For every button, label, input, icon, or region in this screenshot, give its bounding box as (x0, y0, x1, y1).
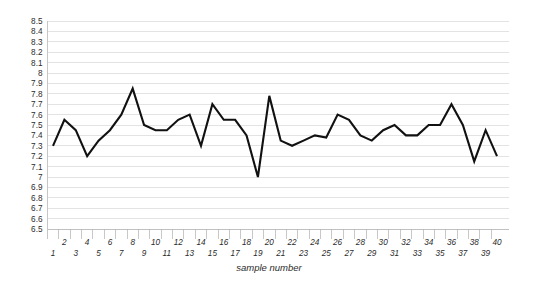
y-axis-tick-label: 7.2 (31, 152, 43, 161)
x-axis-tick-label: 18 (242, 238, 252, 247)
x-axis-tick-label: 6 (108, 238, 113, 247)
x-axis-tick-label: 30 (379, 238, 389, 247)
y-axis-tick-label: 6.9 (31, 183, 43, 192)
x-axis-tick-label: 32 (401, 238, 411, 247)
y-axis-tick-label: 7.3 (31, 142, 43, 151)
x-axis-tick-label: 20 (264, 238, 275, 247)
x-axis-tick-label: 2 (61, 238, 67, 247)
x-axis-tick-labels: 1234567891011121314151617181920212223242… (51, 238, 502, 258)
x-axis-tick-label: 36 (447, 238, 457, 247)
y-axis-tick-label: 8.5 (31, 17, 43, 26)
y-axis-tick-label: 8.1 (31, 59, 43, 68)
y-axis-tick-label: 7.4 (31, 131, 43, 140)
x-axis-tick-label: 27 (343, 249, 354, 258)
x-axis-tick-label: 10 (151, 238, 161, 247)
x-axis-tick-label: 35 (436, 249, 446, 258)
x-axis-tick-label: 1 (51, 249, 56, 258)
x-axis-tick-label: 38 (470, 238, 480, 247)
line-chart: 8.58.48.38.28.187.97.87.77.67.57.47.37.2… (0, 0, 539, 287)
x-axis-tick-label: 3 (73, 249, 78, 258)
y-axis-tick-label: 6.6 (31, 215, 43, 224)
y-axis-tick-labels: 8.58.48.38.28.187.97.87.77.67.57.47.37.2… (31, 17, 43, 234)
x-axis-tick-label: 33 (413, 249, 423, 258)
x-axis-tick-label: 29 (366, 249, 377, 258)
y-axis-tick-label: 7.5 (31, 121, 43, 130)
x-axis-tick-label: 22 (287, 238, 298, 247)
x-axis-tick-label: 19 (253, 249, 263, 258)
x-axis-tick-label: 15 (208, 249, 218, 258)
x-axis-tick-label: 9 (142, 249, 147, 258)
x-axis-tick-label: 16 (219, 238, 229, 247)
y-axis-tick-label: 7.9 (31, 79, 43, 88)
y-axis-tick-label: 7 (38, 173, 43, 182)
chart-canvas: 8.58.48.38.28.187.97.87.77.67.57.47.37.2… (0, 0, 539, 287)
y-axis-tick-label: 8.2 (31, 48, 43, 57)
x-axis-tick-label: 25 (321, 249, 332, 258)
y-axis-tick-label: 7.6 (31, 111, 43, 120)
x-axis-tick-label: 23 (298, 249, 309, 258)
x-axis-tick-label: 5 (96, 249, 101, 258)
x-axis-tick-label: 8 (130, 238, 135, 247)
y-axis-tick-label: 7.7 (31, 100, 43, 109)
x-axis-tick-label: 24 (309, 238, 320, 247)
x-axis-tick-label: 21 (275, 249, 285, 258)
x-axis-tick-label: 11 (163, 249, 172, 258)
x-axis-tick-label: 37 (458, 249, 468, 258)
x-axis-tick-label: 34 (424, 238, 434, 247)
x-axis-tick-label: 14 (196, 238, 206, 247)
x-axis-tick-label: 12 (174, 238, 184, 247)
y-axis-tick-label: 7.8 (31, 90, 43, 99)
y-axis-tick-label: 8.4 (31, 27, 43, 36)
x-axis-tick-label: 4 (85, 238, 90, 247)
x-axis-tick-label: 40 (492, 238, 502, 247)
x-axis-tick-label: 7 (119, 249, 124, 258)
y-axis-tick-label: 6.7 (31, 204, 43, 213)
x-axis-tick-label: 13 (185, 249, 195, 258)
y-axis-tick-label: 8.3 (31, 38, 43, 47)
y-axis-tick-label: 8 (38, 69, 43, 78)
data-series-line (53, 89, 497, 177)
x-axis-title: sample number (236, 262, 302, 273)
y-axis-tick-label: 6.5 (31, 225, 43, 234)
x-axis-tick-label: 26 (332, 238, 343, 247)
x-axis-tick-label: 31 (390, 249, 399, 258)
x-axis-tick-label: 28 (355, 238, 366, 247)
y-axis-tick-label: 6.8 (31, 194, 43, 203)
x-axis-tick-label: 39 (481, 249, 491, 258)
y-axis-tick-label: 7.1 (31, 163, 43, 172)
x-axis-tick-label: 17 (231, 249, 241, 258)
